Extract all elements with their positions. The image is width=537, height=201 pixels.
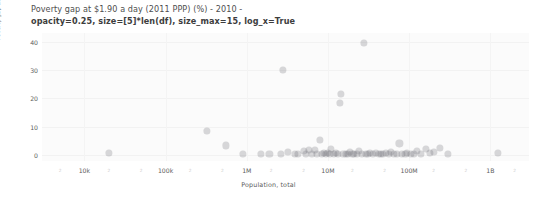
plot-area <box>42 33 529 161</box>
scatter-chart-figure: Poverty gap at $1.90 a day (2011 PPP) (%… <box>0 0 537 201</box>
x-tick-minor-label: 2 <box>59 168 62 173</box>
x-tick-minor-label: 2 <box>513 168 516 173</box>
gridline-horizontal <box>42 127 529 128</box>
x-axis-title: Population, total <box>0 181 537 189</box>
data-point[interactable] <box>240 150 247 157</box>
data-point[interactable] <box>436 144 443 151</box>
x-tick-minor-label: 2 <box>432 168 435 173</box>
chart-title-block: Poverty gap at $1.90 a day (2011 PPP) (%… <box>31 3 501 27</box>
y-axis-tick-labels: 010203040 <box>6 33 38 161</box>
gridline-horizontal <box>42 42 529 43</box>
gridline-vertical <box>84 33 85 161</box>
data-point[interactable] <box>396 140 403 147</box>
data-point[interactable] <box>444 150 451 157</box>
x-tick-minor-label: 2 <box>108 168 111 173</box>
x-tick-minor-label: 2 <box>140 168 143 173</box>
gridline-vertical <box>409 33 410 161</box>
y-tick-label: 0 <box>12 152 38 159</box>
x-tick-minor-label: 2 <box>383 168 386 173</box>
x-axis-tick-labels: 10k100k1M10M100M1B222222222222 <box>42 164 529 176</box>
gridline-horizontal <box>42 98 529 99</box>
chart-title: Poverty gap at $1.90 a day (2011 PPP) (%… <box>31 3 501 15</box>
gridline-vertical <box>166 33 167 161</box>
x-tick-minor-label: 2 <box>189 168 192 173</box>
x-tick-label: 10M <box>321 167 334 174</box>
data-point[interactable] <box>317 136 324 143</box>
x-tick-minor-label: 2 <box>351 168 354 173</box>
y-axis-title: Poverty gap at $1.90 a day (2011 PPP) (%… <box>0 0 1 40</box>
x-tick-minor-label: 2 <box>302 168 305 173</box>
gridline-vertical <box>490 33 491 161</box>
x-tick-minor-label: 2 <box>464 168 467 173</box>
y-tick-label: 10 <box>12 123 38 130</box>
y-tick-label: 30 <box>12 67 38 74</box>
x-tick-minor-label: 2 <box>221 168 224 173</box>
data-point[interactable] <box>266 150 273 157</box>
chart-subtitle: opacity=0.25, size=[5]*len(df), size_max… <box>31 15 501 27</box>
y-tick-label: 20 <box>12 95 38 102</box>
gridline-horizontal <box>42 155 529 156</box>
x-tick-label: 10k <box>79 167 90 174</box>
x-tick-minor-label: 2 <box>270 168 273 173</box>
gridline-vertical <box>328 33 329 161</box>
data-point[interactable] <box>336 99 343 106</box>
data-point[interactable] <box>258 151 265 158</box>
x-tick-label: 1B <box>486 167 494 174</box>
x-tick-label: 1M <box>242 167 251 174</box>
data-point[interactable] <box>223 142 230 149</box>
data-point[interactable] <box>361 39 368 46</box>
data-point[interactable] <box>280 66 287 73</box>
data-point[interactable] <box>203 127 210 134</box>
x-tick-label: 100M <box>401 167 418 174</box>
x-tick-label: 100k <box>158 167 173 174</box>
y-tick-label: 40 <box>12 38 38 45</box>
data-point[interactable] <box>337 91 344 98</box>
gridline-vertical <box>247 33 248 161</box>
